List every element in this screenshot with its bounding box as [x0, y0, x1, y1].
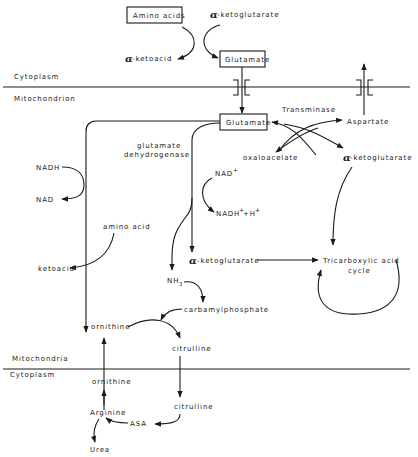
node-ornithine-mito: ornithine — [91, 323, 130, 331]
node-tca-cycle-2: cycle — [348, 267, 371, 275]
node-nadh-h: NADH — [216, 210, 240, 218]
node-glutamate-mitochondrion: Glutamate — [226, 119, 271, 127]
superscript-plus: + — [233, 166, 239, 173]
node-amino-acid: amino acid — [103, 223, 151, 231]
node-plus-h: +H — [243, 210, 256, 218]
node-alpha-ketoglutarate-right: -ketoglutarate — [350, 154, 412, 162]
label-transminase: Transminase — [281, 106, 336, 114]
node-citrulline-cyto: citrulline — [174, 403, 213, 411]
node-ketoacid: ketoacid — [38, 265, 75, 273]
urea-cycle-diagram: Cytoplasm Mitochondrion Mitochondria Cyt… — [0, 0, 418, 457]
label-cytoplasm-top: Cytoplasm — [14, 73, 59, 81]
node-alpha-ketoglutarate-top: -ketoglutarate — [217, 11, 279, 19]
node-urea: Urea — [90, 446, 110, 454]
node-oxaloacelate: oxaloacelate — [243, 154, 298, 162]
node-alpha-ketoglutarate-mid: -ketoglutarate — [197, 257, 259, 265]
alpha-symbol: α — [189, 255, 197, 266]
node-citrulline-mito: citrulline — [172, 345, 211, 353]
node-arginine: Arginine — [90, 409, 126, 417]
subscript-3: 3 — [179, 281, 183, 287]
node-aspartate: Aspartate — [347, 118, 389, 126]
label-mitochondrion: Mitochondrion — [14, 95, 76, 103]
node-tca-cycle-1: Tricarboxylic acid — [322, 257, 400, 265]
node-alpha-ketoacid: -ketoacid — [132, 55, 172, 63]
label-cytoplasm-bottom: Cytoplasm — [10, 371, 55, 379]
node-nad: NAD — [36, 196, 54, 204]
node-nadh: NADH — [36, 164, 60, 172]
node-ornithine-cyto: ornithine — [92, 378, 131, 386]
label-mitochondria: Mitochondria — [12, 355, 68, 363]
node-glutamate-cytoplasm: Glutamate — [225, 56, 270, 64]
label-glutamate-dehydrogenase-2: dehydrogenase — [124, 151, 190, 159]
node-nad-plus: NAD — [215, 170, 233, 178]
node-carbamylphosphate: carbamylphosphate — [184, 306, 269, 314]
node-asa: ASA — [130, 420, 147, 428]
superscript-plus: + — [255, 206, 261, 213]
node-nh3: NH — [167, 277, 179, 285]
node-amino-acids: Amino acids — [133, 12, 186, 20]
label-glutamate-dehydrogenase-1: glutamate — [137, 142, 181, 150]
